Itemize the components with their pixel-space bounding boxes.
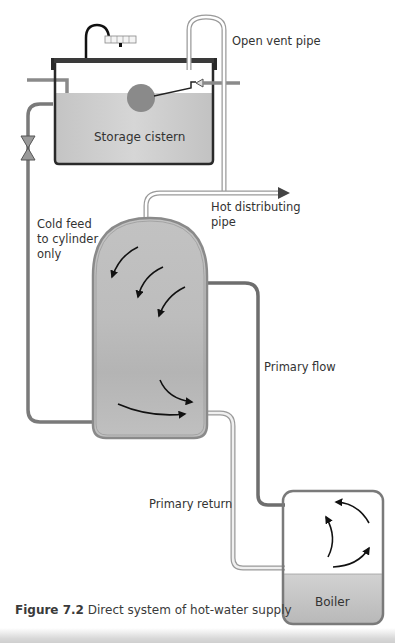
label-storage-cistern: Storage cistern: [94, 130, 185, 145]
label-open-vent-pipe: Open vent pipe: [232, 34, 321, 49]
storage-cistern: [51, 58, 217, 164]
gate-valve-icon: [21, 136, 35, 160]
figure-caption-text: Direct system of hot-water supply: [84, 603, 292, 617]
primary-flow-pipe: [205, 283, 285, 505]
hot-water-cylinder: [93, 218, 207, 438]
cistern-lid-handle-icon: [86, 25, 136, 58]
figure-caption: Figure 7.2 Direct system of hot-water su…: [15, 603, 292, 617]
hot-water-system-diagram: [0, 0, 395, 643]
label-primary-flow: Primary flow: [264, 360, 336, 375]
label-cold-feed: Cold feed to cylinder only: [37, 217, 98, 262]
label-primary-return: Primary return: [149, 497, 232, 512]
label-hot-distributing-pipe: Hot distributing pipe: [211, 200, 301, 230]
primary-return-pipe: [207, 413, 285, 568]
figure-number: Figure 7.2: [15, 603, 84, 617]
label-boiler: Boiler: [315, 595, 350, 610]
page-bottom-shadow: [0, 628, 395, 643]
